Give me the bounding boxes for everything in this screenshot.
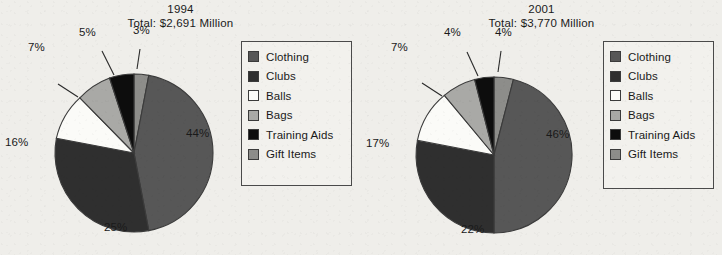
chart-title-block-2001: 2001 Total: $3,770 Million bbox=[361, 2, 722, 31]
legend-swatch-clubs-icon bbox=[248, 71, 259, 82]
legend-swatch-training-aids-icon bbox=[248, 129, 259, 140]
leader-line-gift-items bbox=[498, 51, 501, 72]
legend-2001: Clothing Clubs Balls Bags Training Aids … bbox=[603, 41, 714, 189]
leader-line-gift-items bbox=[137, 49, 140, 69]
legend-label-training-aids: Training Aids bbox=[266, 129, 333, 141]
legend-swatch-bags-icon bbox=[610, 110, 621, 121]
legend-swatch-gift-items-icon bbox=[248, 149, 259, 160]
legend-item-gift-items[interactable]: Gift Items bbox=[248, 145, 343, 165]
pct-label-clubs: 22% bbox=[461, 223, 484, 235]
legend-swatch-training-aids-icon bbox=[610, 129, 621, 140]
pie-chart-1994: 44% 25% 16% 7% 5% 3% bbox=[54, 73, 214, 233]
chart-total-title: Total: $3,770 Million bbox=[361, 16, 722, 31]
legend-label-bags: Bags bbox=[266, 109, 293, 121]
legend-label-clubs: Clubs bbox=[266, 70, 296, 82]
legend-item-clubs[interactable]: Clubs bbox=[248, 67, 343, 87]
legend-label-training-aids: Training Aids bbox=[628, 129, 695, 141]
legend-label-clubs: Clubs bbox=[628, 70, 658, 82]
legend-label-balls: Balls bbox=[628, 90, 653, 102]
chart-total-title: Total: $2,691 Million bbox=[0, 16, 361, 31]
leader-line-bags bbox=[58, 84, 78, 97]
legend-swatch-balls-icon bbox=[610, 90, 621, 101]
pct-label-gift-items: 3% bbox=[133, 24, 150, 36]
legend-item-clubs[interactable]: Clubs bbox=[610, 67, 705, 87]
chart-panel-1994: 1994 Total: $2,691 Million bbox=[0, 0, 361, 255]
legend-label-gift-items: Gift Items bbox=[266, 148, 316, 160]
pct-label-balls: 16% bbox=[5, 136, 28, 148]
chart-title-block-1994: 1994 Total: $2,691 Million bbox=[0, 2, 361, 31]
pct-label-balls: 17% bbox=[366, 137, 389, 149]
legend-label-clothing: Clothing bbox=[266, 51, 309, 63]
leader-line-bags bbox=[422, 83, 442, 96]
legend-item-balls[interactable]: Balls bbox=[610, 86, 705, 106]
legend-item-balls[interactable]: Balls bbox=[248, 86, 343, 106]
pie-chart-2001: 46% 22% 17% 7% 4% 4% bbox=[415, 76, 573, 234]
pie-svg-2001 bbox=[415, 76, 573, 234]
pct-label-bags: 7% bbox=[391, 41, 408, 53]
legend-label-clothing: Clothing bbox=[628, 51, 671, 63]
legend-swatch-clothing-icon bbox=[248, 51, 259, 62]
legend-swatch-clubs-icon bbox=[610, 71, 621, 82]
legend-label-bags: Bags bbox=[628, 109, 655, 121]
pie-svg-1994 bbox=[54, 73, 214, 233]
pct-label-clubs: 25% bbox=[104, 221, 127, 233]
legend-item-gift-items[interactable]: Gift Items bbox=[610, 145, 705, 165]
chart-year-title: 2001 bbox=[361, 2, 722, 16]
legend-1994: Clothing Clubs Balls Bags Training Aids … bbox=[241, 41, 352, 186]
legend-item-clothing[interactable]: Clothing bbox=[248, 47, 343, 67]
legend-swatch-gift-items-icon bbox=[610, 149, 621, 160]
legend-swatch-balls-icon bbox=[248, 90, 259, 101]
leader-line-training-aids bbox=[467, 52, 478, 76]
pie-slice-clubs bbox=[416, 140, 494, 233]
legend-item-training-aids[interactable]: Training Aids bbox=[248, 125, 343, 145]
legend-swatch-clothing-icon bbox=[610, 51, 621, 62]
legend-label-gift-items: Gift Items bbox=[628, 148, 678, 160]
legend-item-clothing[interactable]: Clothing bbox=[610, 47, 705, 67]
pie-chart-figure: 1994 Total: $2,691 Million bbox=[0, 0, 722, 255]
pct-label-training-aids: 4% bbox=[444, 26, 461, 38]
pct-label-gift-items: 4% bbox=[495, 26, 512, 38]
leader-line-training-aids bbox=[102, 51, 114, 75]
legend-item-bags[interactable]: Bags bbox=[248, 106, 343, 126]
legend-item-training-aids[interactable]: Training Aids bbox=[610, 125, 705, 145]
chart-year-title: 1994 bbox=[0, 2, 361, 16]
legend-item-bags[interactable]: Bags bbox=[610, 106, 705, 126]
legend-swatch-bags-icon bbox=[248, 110, 259, 121]
pie-slice-clothing bbox=[134, 75, 213, 230]
legend-label-balls: Balls bbox=[266, 90, 291, 102]
chart-panel-2001: 2001 Total: $3,770 Million bbox=[361, 0, 722, 255]
pct-label-clothing: 44% bbox=[186, 127, 209, 139]
pct-label-bags: 7% bbox=[28, 41, 45, 53]
pct-label-training-aids: 5% bbox=[79, 26, 96, 38]
pct-label-clothing: 46% bbox=[546, 128, 569, 140]
